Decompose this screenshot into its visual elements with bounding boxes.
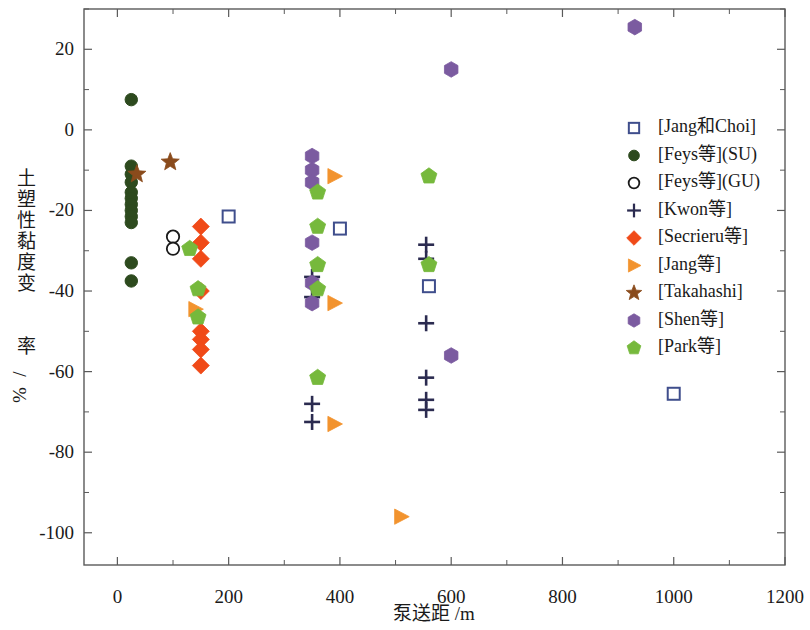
legend-label: [Park等] bbox=[658, 336, 721, 356]
data-point bbox=[305, 235, 319, 251]
x-tick-label: 800 bbox=[548, 586, 577, 607]
data-point bbox=[125, 257, 137, 269]
x-tick-label: 200 bbox=[214, 586, 243, 607]
data-point bbox=[668, 388, 680, 400]
y-axis-title-char: 变 bbox=[17, 273, 36, 294]
y-axis-title-char: 塑 bbox=[17, 189, 36, 210]
y-tick-label: -100 bbox=[39, 522, 74, 543]
y-axis-title-char: / bbox=[9, 371, 30, 377]
legend-label: [Shen等] bbox=[658, 309, 724, 329]
legend-label: [Secrieru等] bbox=[658, 226, 748, 246]
y-tick-label: -20 bbox=[49, 199, 74, 220]
y-axis-title-char: 度 bbox=[17, 252, 36, 273]
legend-marker-open-square-icon bbox=[629, 123, 639, 133]
data-point bbox=[223, 210, 235, 222]
data-point bbox=[125, 93, 137, 105]
y-axis-title-char: % bbox=[9, 387, 30, 403]
y-tick-label: 0 bbox=[65, 119, 75, 140]
x-axis-title: 泵送距 /m bbox=[393, 603, 475, 624]
legend-label: [Jang等] bbox=[658, 254, 721, 274]
legend-marker-open-circle-icon bbox=[629, 178, 640, 189]
data-point bbox=[444, 62, 458, 78]
data-point bbox=[423, 280, 435, 292]
y-axis-title-char: 率 bbox=[17, 336, 36, 357]
y-tick-label: -80 bbox=[49, 441, 74, 462]
data-point bbox=[628, 19, 642, 35]
data-point bbox=[167, 243, 179, 255]
x-tick-label: 400 bbox=[326, 586, 355, 607]
y-axis-title-char: 黏 bbox=[17, 231, 36, 252]
chart-canvas: 020040060080010001200 200-20-40-60-80-10… bbox=[0, 0, 810, 630]
legend-label: [Kwon等] bbox=[658, 199, 732, 219]
data-point bbox=[334, 223, 346, 235]
y-axis-title-char: 土 bbox=[17, 168, 36, 189]
data-point bbox=[305, 295, 319, 311]
data-point bbox=[444, 348, 458, 364]
scatter-chart-figure: 020040060080010001200 200-20-40-60-80-10… bbox=[0, 0, 810, 630]
legend-label: [Takahashi] bbox=[658, 281, 743, 301]
x-tick-label: 1000 bbox=[655, 586, 693, 607]
data-point bbox=[167, 230, 179, 242]
y-axis-title-char: 性 bbox=[17, 210, 36, 231]
y-tick-label: -60 bbox=[49, 361, 74, 382]
x-tick-label: 1200 bbox=[766, 586, 804, 607]
legend-label: [Feys等](SU) bbox=[658, 144, 757, 165]
legend-label: [Jang和Choi] bbox=[658, 116, 756, 136]
y-tick-label: -40 bbox=[49, 280, 74, 301]
legend-marker-filled-circle-icon bbox=[629, 150, 640, 161]
data-point bbox=[125, 216, 137, 228]
data-point bbox=[305, 148, 319, 164]
data-point bbox=[125, 275, 137, 287]
x-tick-label: 0 bbox=[113, 586, 123, 607]
legend-marker-hexagon-icon bbox=[628, 314, 640, 327]
legend-label: [Feys等](GU) bbox=[658, 171, 760, 192]
y-tick-label: 20 bbox=[55, 38, 74, 59]
